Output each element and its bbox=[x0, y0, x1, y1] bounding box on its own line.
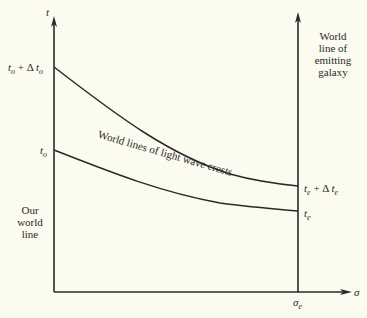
emitting-galaxy-label: World line of emitting galaxy bbox=[308, 30, 358, 78]
light-crest-curve-upper bbox=[54, 67, 298, 186]
label-sigma-e: σe bbox=[293, 296, 302, 310]
t-axis-label: t bbox=[46, 6, 49, 18]
sigma-axis-label: σ bbox=[354, 286, 359, 298]
label-te-plus-delta-te: te + Δ te bbox=[304, 182, 338, 196]
label-te: te bbox=[304, 207, 311, 221]
our-world-line-label: Our world line bbox=[12, 204, 48, 240]
label-t0-plus-delta-t0: to + Δ to bbox=[8, 61, 43, 75]
label-t0: to bbox=[40, 144, 47, 158]
